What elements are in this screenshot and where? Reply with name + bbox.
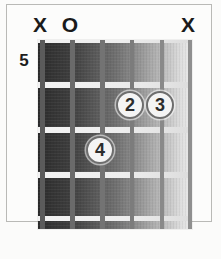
string-1 — [40, 40, 45, 229]
string-5 — [160, 40, 164, 229]
marker-string-1: X — [29, 14, 51, 35]
fret-line-2 — [38, 127, 192, 133]
fret-line-4 — [38, 216, 192, 221]
finger-dot-3: 3 — [146, 91, 174, 119]
chord-diagram-screenshot: 5 XOX 234 — [0, 0, 221, 259]
marker-string-6: X — [177, 14, 199, 35]
fret-line-nut — [38, 40, 192, 43]
finger-dot-2: 2 — [116, 91, 144, 119]
marker-string-2: O — [59, 14, 81, 35]
string-4 — [130, 40, 134, 229]
finger-dot-4: 4 — [86, 136, 114, 164]
fretboard — [38, 40, 192, 229]
string-3 — [100, 40, 105, 229]
string-6 — [188, 40, 192, 229]
fret-line-1 — [38, 82, 192, 88]
fret-line-3 — [38, 172, 192, 178]
fret-position-number: 5 — [14, 52, 34, 69]
string-2 — [70, 40, 75, 229]
